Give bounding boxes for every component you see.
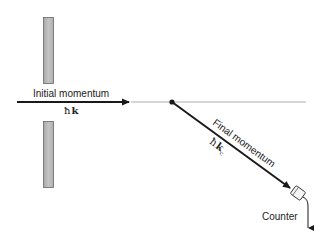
final-momentum-symbol: ħkc [207,136,230,157]
initial-momentum-label: Initial momentum [33,88,109,99]
upper-slit-plate [44,18,54,84]
final-momentum-arrow [172,102,290,188]
counter-output-arrow [303,197,308,228]
lower-slit-plate [44,122,54,188]
scattering-diagram: Initial momentum ħk Final momentum ħkc C… [0,0,328,236]
svg-text:ħkc: ħkc [207,136,230,157]
counter-detector [290,185,306,200]
initial-momentum-symbol: ħk [64,105,79,116]
counter-label: Counter [262,211,298,222]
